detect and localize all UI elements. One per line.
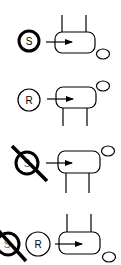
- organism-body: [58, 151, 100, 173]
- figure-stimulus-present: S: [19, 15, 110, 59]
- figure-response: R: [18, 81, 110, 126]
- stimulus-label: S: [26, 36, 33, 47]
- organism-head: [103, 252, 116, 262]
- figure-no-stimulus-response: S R: [0, 214, 116, 262]
- organism-head: [97, 49, 110, 59]
- response-label: R: [25, 95, 32, 106]
- organism-head: [97, 81, 110, 91]
- figure-stimulus-absent: S: [12, 146, 115, 193]
- organism-body: [59, 232, 100, 254]
- organism-body: [56, 87, 96, 108]
- diagram-canvas: S R S S R: [0, 0, 121, 265]
- response-label: R: [34, 239, 41, 250]
- organism-head: [102, 146, 115, 156]
